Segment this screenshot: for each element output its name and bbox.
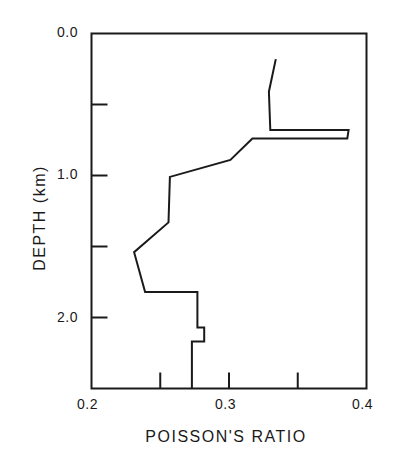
y-axis-ticks — [92, 105, 108, 318]
y-tick-label-1: 1.0 — [57, 166, 78, 182]
x-axis-ticks — [160, 373, 298, 389]
x-axis-title: POISSON'S RATIO — [145, 428, 306, 446]
y-tick-label-0: 0.0 — [57, 24, 78, 40]
x-tick-label-0.2: 0.2 — [77, 396, 98, 412]
x-tick-label-0.4: 0.4 — [352, 396, 373, 412]
y-axis-title: DEPTH (km) — [31, 165, 49, 271]
poisson-ratio-line — [134, 59, 349, 388]
plot-frame — [92, 34, 367, 389]
y-tick-label-2: 2.0 — [57, 309, 78, 325]
x-tick-label-0.3: 0.3 — [215, 396, 236, 412]
chart-canvas — [0, 0, 399, 469]
